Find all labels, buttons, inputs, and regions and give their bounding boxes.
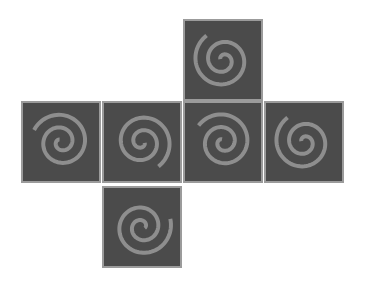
face-row-2 — [102, 101, 182, 183]
face-bottom — [102, 186, 182, 268]
spiral-icon — [266, 103, 342, 181]
face-row-3 — [183, 101, 263, 183]
face-top — [183, 19, 263, 101]
cube-net-diagram — [0, 0, 365, 285]
spiral-icon — [104, 188, 180, 266]
face-row-4 — [264, 101, 344, 183]
spiral-icon — [104, 103, 180, 181]
spiral-icon — [185, 21, 261, 99]
face-row-1 — [21, 101, 101, 183]
spiral-icon — [23, 103, 99, 181]
spiral-icon — [185, 103, 261, 181]
